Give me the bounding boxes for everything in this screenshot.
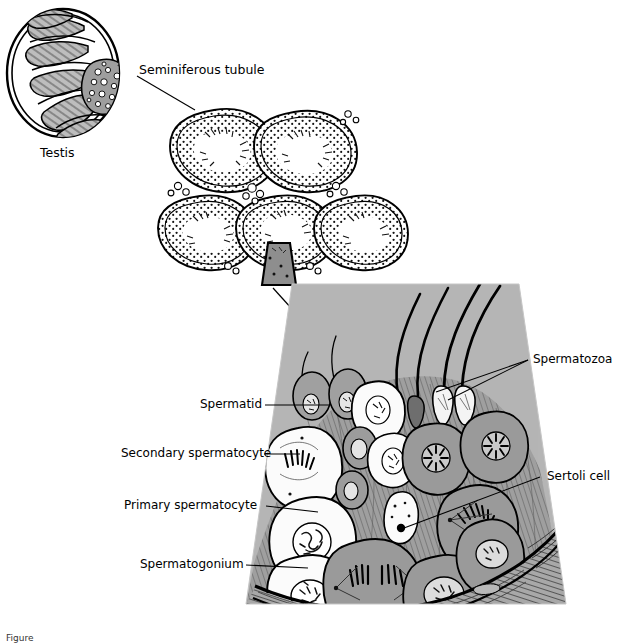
label-secondary-spermatocyte: Secondary spermatocyte [121, 446, 271, 460]
magnified-epithelium-panel [246, 284, 570, 641]
figure-canvas: Seminiferous tubule Testis Spermatid Sec… [0, 0, 619, 643]
label-sertoli-cell: Sertoli cell [547, 469, 610, 483]
label-spermatid: Spermatid [200, 397, 262, 411]
testis-illustration [7, 9, 166, 152]
figure-caption: Figure [6, 633, 33, 643]
magnified-region-wedge [262, 243, 296, 285]
label-primary-spermatocyte: Primary spermatocyte [124, 498, 257, 512]
nucleolus [397, 524, 405, 532]
sertoli-cell-nucleus [384, 492, 418, 544]
leader-seminiferous-tubule [137, 76, 195, 110]
label-spermatogonium: Spermatogonium [140, 557, 244, 571]
label-spermatozoa: Spermatozoa [533, 352, 612, 366]
label-seminiferous-tubule: Seminiferous tubule [139, 62, 265, 77]
diagram-svg [0, 0, 619, 643]
label-testis: Testis [40, 145, 75, 160]
